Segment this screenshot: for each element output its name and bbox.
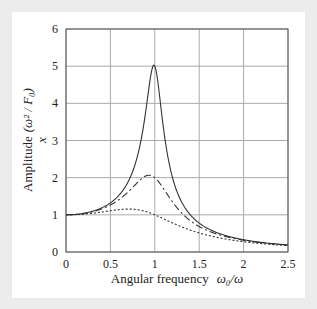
y-axis-variable: x (34, 137, 49, 144)
y-axis-label: Amplitude(ω² / F₀) (20, 88, 35, 192)
y-tick-label: 6 (52, 22, 58, 36)
x-tick-label: 0 (63, 257, 69, 271)
x-tick-label: 2 (241, 257, 247, 271)
x-tick-label: 2.5 (281, 257, 296, 271)
curve-solid (66, 65, 288, 245)
y-tick-label: 3 (52, 134, 58, 148)
x-tick-label: 1.5 (192, 257, 207, 271)
y-tick-labels: 0123456 (52, 22, 58, 259)
y-tick-label: 5 (52, 59, 58, 73)
x-tick-label: 0.5 (103, 257, 118, 271)
grid (66, 29, 288, 252)
x-tick-labels: 00.511.522.5 (63, 257, 296, 271)
y-tick-label: 4 (52, 96, 58, 110)
curve-dashdot (66, 175, 288, 245)
x-axis-label: Angular frequencyω₀/ω (111, 271, 243, 286)
y-tick-label: 0 (52, 245, 58, 259)
y-tick-label: 1 (52, 208, 58, 222)
y-tick-label: 2 (52, 171, 58, 185)
curves (66, 65, 288, 245)
x-tick-label: 1 (152, 257, 158, 271)
resonance-chart: 00.511.522.5 0123456 Angular frequencyω₀… (0, 0, 317, 309)
